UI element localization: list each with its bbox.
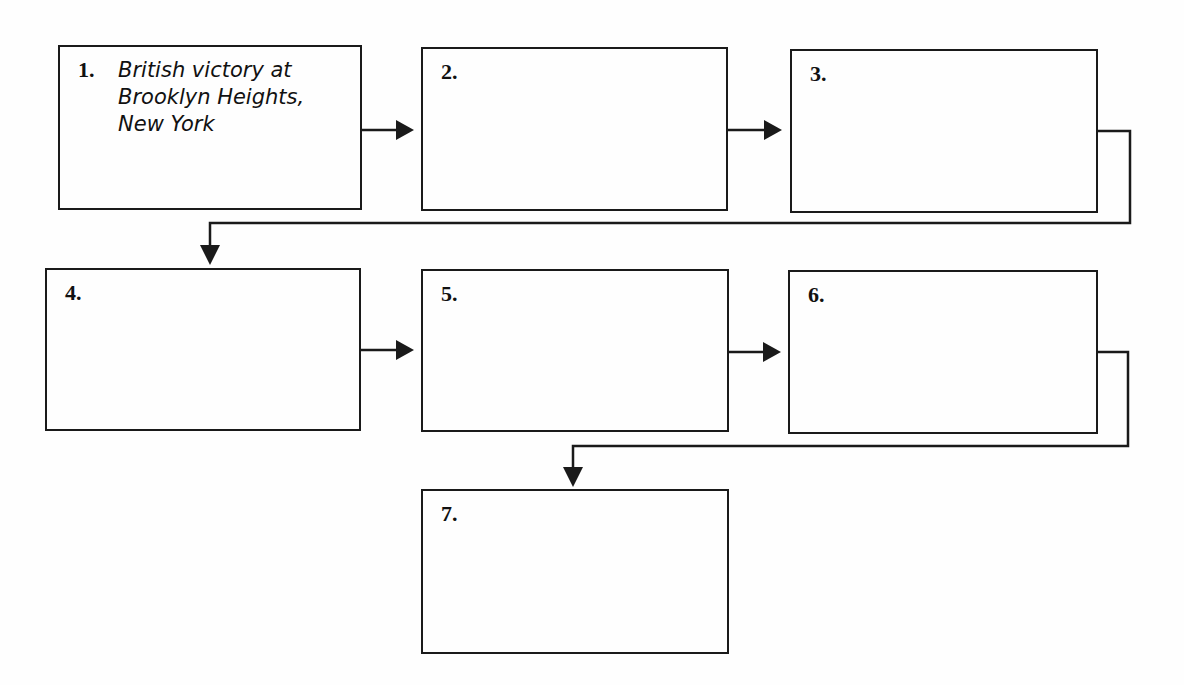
- arrowhead-right-icon: [396, 340, 414, 360]
- step-number: 1.: [78, 57, 95, 83]
- step-box-2: 2.: [421, 47, 728, 211]
- step-box-5: 5.: [421, 269, 729, 432]
- arrowhead-right-icon: [396, 120, 414, 140]
- step-box-6: 6.: [788, 270, 1098, 434]
- step-number: 2.: [441, 59, 458, 85]
- step-box-1: 1. British victory at Brooklyn Heights, …: [58, 45, 362, 210]
- arrowhead-right-icon: [764, 120, 782, 140]
- step-box-4: 4.: [45, 268, 361, 431]
- step-box-3: 3.: [790, 49, 1098, 213]
- step-number: 4.: [65, 280, 82, 306]
- step-text: British victory at Brooklyn Heights, New…: [118, 57, 304, 138]
- step-number: 3.: [810, 61, 827, 87]
- arrowhead-right-icon: [763, 342, 781, 362]
- step-number: 7.: [441, 501, 458, 527]
- arrowhead-down-icon: [200, 245, 220, 265]
- step-number: 5.: [441, 281, 458, 307]
- step-number: 6.: [808, 282, 825, 308]
- flowchart-canvas: 1. British victory at Brooklyn Heights, …: [0, 0, 1184, 685]
- step-box-7: 7.: [421, 489, 729, 654]
- arrowhead-down-icon: [563, 467, 583, 487]
